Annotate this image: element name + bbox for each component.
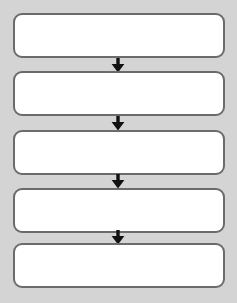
flowchart-node-2[interactable] (13, 71, 225, 116)
flowchart-node-3[interactable] (13, 130, 225, 175)
flowchart-canvas (0, 0, 237, 303)
flowchart-node-1[interactable] (13, 13, 225, 58)
arrow-down-icon (109, 174, 127, 189)
flowchart-node-5[interactable] (13, 243, 225, 288)
arrow-down-icon (109, 116, 127, 131)
flowchart-node-4[interactable] (13, 188, 225, 233)
